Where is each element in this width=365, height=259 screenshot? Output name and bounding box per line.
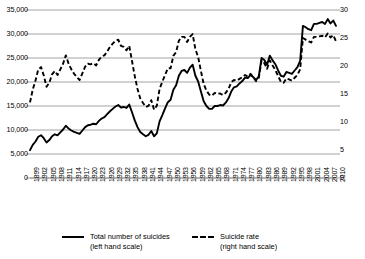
left-axis-tick-label: 30,000: [7, 30, 28, 37]
x-axis-tick-label: 1971: [232, 167, 239, 182]
x-axis-tick-label: 1929: [116, 167, 123, 182]
right-axis-tick-label: 5: [340, 146, 344, 153]
x-axis-tick-label: 1992: [290, 167, 297, 182]
x-axis-tick-label: 1953: [182, 167, 189, 182]
legend-sublabel-left-hand-scale: (left hand scale): [90, 242, 170, 252]
x-axis-tick-label: 1908: [58, 167, 65, 182]
chart-legend: Total number of suicides (left hand scal…: [0, 228, 365, 259]
left-axis-tick-label: 5,000: [11, 150, 29, 157]
x-axis-tick-label: 1959: [199, 167, 206, 182]
x-axis-tick-label: 1950: [174, 167, 181, 182]
x-axis-tick-label: 1911: [66, 168, 73, 182]
series-line-total-number-of-suicides: [30, 19, 336, 150]
x-axis-tick-label: 2010: [339, 167, 346, 182]
right-axis-tick-label: 10: [340, 118, 348, 125]
x-axis-tick-label: 1983: [265, 167, 272, 182]
x-axis-tick-label: 1977: [248, 167, 255, 182]
x-axis-tick-label: 1902: [41, 167, 48, 182]
x-axis-tick-label: 1917: [83, 167, 90, 182]
x-axis-tick-label: 2004: [323, 167, 330, 182]
suicide-statistics-chart: 05,00010,00015,00020,00025,00030,00035,0…: [0, 0, 365, 259]
x-axis-tick-label: 1989: [281, 167, 288, 182]
x-axis-tick-label: 1965: [215, 167, 222, 182]
x-axis-tick-label: 1995: [298, 167, 305, 182]
left-axis-tick-label: 20,000: [7, 78, 28, 85]
x-axis-tick-label: 1899: [33, 167, 40, 182]
x-axis-tick-label: 1968: [223, 167, 230, 182]
series-line-suicide-rate: [30, 34, 336, 110]
axis-frame: [26, 10, 340, 178]
x-axis-tick-label: 1932: [124, 167, 131, 182]
x-axis-tick-label: 1998: [306, 167, 313, 182]
x-axis-tick-label: 1905: [50, 167, 57, 182]
legend-label-total-number-of-suicides: Total number of suicides: [90, 232, 170, 242]
x-axis-tick-label: 2007: [331, 167, 338, 182]
left-axis-tick-label: 10,000: [7, 126, 28, 133]
x-axis-tick-label: 1947: [166, 167, 173, 182]
x-axis-tick-label: 1962: [207, 167, 214, 182]
x-axis-tick-label: 1914: [75, 167, 82, 182]
right-axis-tick-label: 30: [340, 6, 348, 13]
left-axis-tick-label: 0: [24, 174, 28, 181]
right-axis-tick-label: 20: [340, 62, 348, 69]
x-axis-tick-label: 1920: [91, 167, 98, 182]
dashed-line-key: [192, 236, 214, 238]
x-axis-tick-label: 1980: [256, 167, 263, 182]
solid-line-key: [62, 236, 84, 238]
x-axis-tick-label: 1944: [157, 167, 164, 182]
left-axis-tick-label: 15,000: [7, 102, 28, 109]
legend-entry-suicide-rate: Suicide rate (right hand scale): [194, 232, 277, 251]
left-axis-tick-label: 25,000: [7, 54, 28, 61]
x-axis-tick-label: 1986: [273, 167, 280, 182]
left-axis-tick-label: 35,000: [7, 6, 28, 13]
legend-sublabel-right-hand-scale: (right hand scale): [220, 242, 277, 252]
legend-label-suicide-rate: Suicide rate: [220, 232, 277, 242]
legend-entry-total-number-of-suicides: Total number of suicides (left hand scal…: [64, 232, 170, 251]
x-axis-tick-label: 1956: [190, 167, 197, 182]
x-axis-tick-label: 1935: [132, 167, 139, 182]
gridlines: [30, 10, 336, 178]
right-axis-tick-label: 25: [340, 34, 348, 41]
plot-area: [0, 0, 365, 259]
x-axis-tick-label: 1938: [141, 167, 148, 182]
x-axis-tick-label: 1926: [108, 167, 115, 182]
x-axis-tick-label: 1923: [99, 167, 106, 182]
right-axis-tick-label: 15: [340, 90, 348, 97]
x-axis-tick-label: 1941: [149, 167, 156, 182]
x-axis-tick-label: 2001: [314, 167, 321, 182]
x-axis-tick-label: 1974: [240, 167, 247, 182]
